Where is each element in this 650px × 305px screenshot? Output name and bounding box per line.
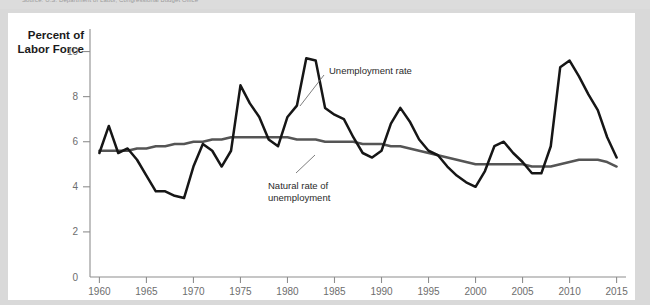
x-tick-label: 2005 bbox=[511, 286, 534, 297]
series-line-natural-rate bbox=[99, 137, 616, 166]
x-tick-label: 1975 bbox=[229, 286, 252, 297]
y-axis-ticks: 0246810 bbox=[67, 46, 90, 282]
x-tick-label: 1970 bbox=[182, 286, 205, 297]
y-tick-label: 6 bbox=[72, 136, 78, 147]
x-tick-label: 1990 bbox=[370, 286, 393, 297]
x-axis-ticks: 1960196519701975198019851990199520002005… bbox=[88, 277, 628, 297]
y-tick-label: 0 bbox=[72, 272, 78, 283]
x-tick-label: 1985 bbox=[323, 286, 346, 297]
x-tick-label: 1960 bbox=[88, 286, 111, 297]
x-tick-label: 1965 bbox=[135, 286, 158, 297]
x-tick-label: 2010 bbox=[558, 286, 581, 297]
x-tick-label: 2015 bbox=[605, 286, 628, 297]
annotation-natural-rate-line1: Natural rate of bbox=[268, 180, 329, 191]
chart-card: Percent of Labor Force 0246810 196019651… bbox=[8, 13, 635, 300]
x-tick-label: 1980 bbox=[276, 286, 299, 297]
y-tick-label: 8 bbox=[72, 91, 78, 102]
natural-rate-leader-line bbox=[296, 155, 315, 173]
series-line-unemployment-rate bbox=[99, 58, 616, 198]
unemployment-chart: Percent of Labor Force 0246810 196019651… bbox=[8, 13, 635, 300]
x-tick-label: 2000 bbox=[464, 286, 487, 297]
source-caption-text: Source: U.S. Department of Labor, Congre… bbox=[22, 0, 198, 3]
figure-root: Source: U.S. Department of Labor, Congre… bbox=[0, 0, 650, 305]
y-tick-label: 2 bbox=[72, 226, 78, 237]
y-tick-label: 10 bbox=[67, 46, 79, 57]
x-tick-label: 1995 bbox=[417, 286, 440, 297]
source-caption-strip: Source: U.S. Department of Labor, Congre… bbox=[0, 0, 650, 9]
y-tick-label: 4 bbox=[72, 181, 78, 192]
annotation-natural-rate-line2: unemployment bbox=[268, 192, 331, 203]
y-axis-title-line1: Percent of bbox=[28, 29, 84, 41]
annotation-unemployment-rate: Unemployment rate bbox=[329, 65, 412, 76]
